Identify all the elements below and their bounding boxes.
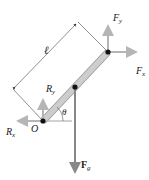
fx-label: Fx bbox=[135, 65, 146, 78]
length-label: ℓ bbox=[44, 44, 49, 56]
rod-end-point bbox=[105, 49, 110, 54]
rx-label: Rx bbox=[5, 126, 16, 139]
diagram-canvas: ℓ Fy Fx Ry Rx O θ Fg bbox=[0, 0, 149, 180]
rod-force-diagram: ℓ Fy Fx Ry Rx O θ Fg bbox=[0, 0, 149, 180]
fy-label: Fy bbox=[112, 12, 123, 25]
pivot-point bbox=[40, 118, 45, 123]
center-of-mass-point bbox=[72, 84, 77, 89]
angle-label: θ bbox=[62, 107, 67, 117]
fg-label: Fg bbox=[81, 159, 91, 172]
dimension-leader-top bbox=[78, 22, 108, 52]
ry-label: Ry bbox=[45, 83, 56, 96]
pivot-label: O bbox=[31, 123, 38, 134]
dimension-leader-bottom bbox=[13, 89, 43, 121]
